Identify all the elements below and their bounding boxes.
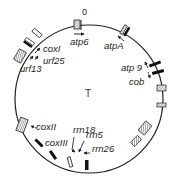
gene-label-urf25: urf25 bbox=[43, 55, 65, 66]
gene-label-rrn5: rrn5 bbox=[86, 129, 104, 140]
gene-label-atp6: atp6 bbox=[70, 36, 89, 47]
gene-coxI-cluster: coxI urf25 urf13 bbox=[14, 28, 66, 74]
origin-marker: 0 bbox=[74, 7, 87, 30]
gene-label-coxI: coxI bbox=[43, 43, 61, 54]
gene-label-atp9: atp 9 bbox=[121, 62, 143, 73]
gene-label-urf13: urf13 bbox=[20, 63, 42, 74]
gene-label-rrn26: rrn26 bbox=[92, 143, 115, 154]
gene-atp6: atp6 bbox=[70, 34, 89, 47]
gene-atpA: atpA bbox=[104, 25, 130, 51]
genome-map: 0 atp6 atpA atp 9 cob bbox=[0, 0, 178, 184]
gene-label-coxIII: coxIII bbox=[45, 137, 68, 148]
hatched-segment bbox=[130, 135, 141, 146]
gene-atp9-cob: atp 9 cob bbox=[121, 61, 164, 87]
origin-label: 0 bbox=[82, 7, 87, 17]
gene-rrn-cluster: rrn18 rrn5 rrn26 bbox=[72, 124, 115, 170]
gene-label-atpA: atpA bbox=[104, 40, 124, 51]
center-label: T bbox=[85, 88, 91, 99]
hatched-segment bbox=[157, 103, 166, 107]
gene-label-coxII: coxII bbox=[36, 121, 56, 132]
gene-label-cob: cob bbox=[129, 76, 144, 87]
hatched-segment bbox=[157, 85, 166, 91]
genome-circle bbox=[15, 25, 163, 173]
gene-coxII-coxIII: coxII coxIII bbox=[16, 117, 73, 167]
hatched-segment bbox=[138, 121, 152, 135]
